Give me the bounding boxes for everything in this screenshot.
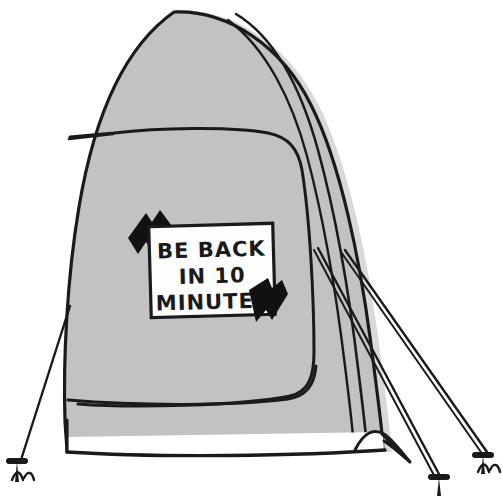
sign-line-1: BE BACK <box>157 236 266 263</box>
tent-illustration: BE BACK IN 10 MINUTES <box>0 0 503 496</box>
illustration-canvas: BE BACK IN 10 MINUTES <box>0 0 503 496</box>
sign-line-2: IN 10 <box>178 263 246 289</box>
